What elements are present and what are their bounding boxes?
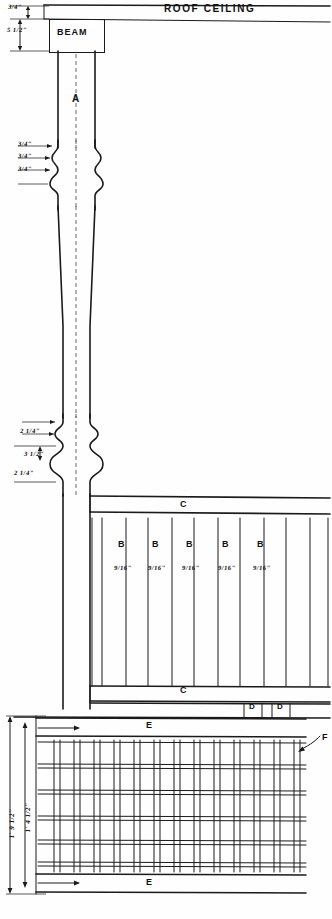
- dim-post-upper-1: 3/4": [17, 141, 32, 148]
- dim-beam-top: 3/4": [7, 4, 22, 11]
- dim-post-lower-1: 2 1/4": [19, 428, 40, 435]
- baluster-label-2: B: [152, 540, 159, 549]
- baluster-size-4: 9/16": [217, 565, 236, 572]
- baluster-label-5: B: [257, 540, 264, 549]
- post-label-a: A: [72, 94, 80, 104]
- baluster-size-5: 9/16": [252, 565, 271, 572]
- baluster-size-2: 9/16": [147, 565, 166, 572]
- baluster-label-1: B: [118, 540, 125, 549]
- dim-post-upper-2: 3/4": [17, 153, 32, 160]
- baluster-size-3: 9/16": [181, 565, 200, 572]
- rail-bottom-label: C: [180, 686, 187, 695]
- dim-post-upper-3: 3/4": [17, 166, 32, 173]
- dim-post-lower-3: 2 1/4": [13, 470, 34, 477]
- drawing-sheet: ROOF CEILING BEAM 3/4" 5 1/2" A: [0, 0, 332, 919]
- post-upper-turning: [0, 140, 140, 210]
- beam-label: BEAM: [57, 28, 88, 37]
- baluster-label-4: B: [222, 540, 229, 549]
- rail-top-label: C: [180, 500, 187, 509]
- baluster-size-1: 9/16": [113, 565, 132, 572]
- post-middle-shaft: [0, 206, 140, 418]
- rail-top: [88, 494, 332, 518]
- dim-post-lower-2: 3 1/2": [23, 451, 44, 458]
- baluster-label-3: B: [186, 540, 193, 549]
- lattice-strip-callout-f: F: [322, 733, 328, 742]
- lattice-grid: [0, 706, 332, 906]
- dim-beam-height: 5 1/2": [6, 27, 27, 34]
- roof-ceiling-label: ROOF CEILING: [164, 4, 255, 14]
